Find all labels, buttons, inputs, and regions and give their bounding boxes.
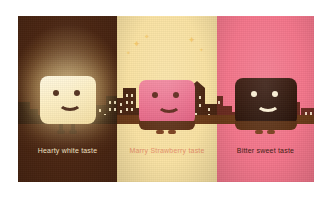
- window-light: [199, 96, 201, 99]
- white-chocolate-character[interactable]: [40, 76, 96, 124]
- character-face: [149, 92, 185, 114]
- caption-strawberry: Marry Strawberry taste: [117, 147, 217, 154]
- sparkle-icon: ✦: [199, 46, 204, 55]
- eye-left-icon: [152, 92, 158, 98]
- window-light: [126, 94, 128, 97]
- panel-strawberry-chocolate[interactable]: ✦ ✦ ✦ ✦ ✦ Marry Strawberry taste: [117, 16, 217, 182]
- smile-mouth-icon: [256, 99, 280, 112]
- window-light: [131, 101, 133, 104]
- character-face: [248, 91, 284, 113]
- window-light: [199, 104, 201, 107]
- foot-left: [255, 130, 263, 134]
- window-light: [208, 108, 210, 111]
- window-light: [120, 103, 122, 106]
- window-light: [218, 101, 220, 104]
- sparkle-icon: ✦: [188, 36, 196, 45]
- smile-mouth-icon: [58, 98, 82, 111]
- sparkle-icon: ✦: [133, 40, 141, 49]
- foot-right: [267, 130, 275, 134]
- poster: Hearty white taste: [18, 16, 314, 182]
- character-body: [40, 76, 96, 124]
- window-light: [109, 101, 111, 104]
- window-light: [126, 101, 128, 104]
- character-face: [50, 90, 86, 112]
- caption-bitter: Bitter sweet taste: [217, 147, 314, 154]
- window-light: [99, 109, 101, 112]
- character-body: [235, 78, 297, 124]
- eye-right-icon: [173, 92, 179, 98]
- sparkle-icon: ✦: [126, 49, 131, 58]
- character-body: [139, 80, 195, 124]
- window-light: [114, 108, 116, 111]
- foot-left: [156, 130, 164, 134]
- foot-left: [57, 130, 65, 134]
- foot-right: [168, 130, 176, 134]
- leg-left: [59, 123, 63, 134]
- panel-bitter-chocolate[interactable]: Bitter sweet taste: [217, 16, 314, 182]
- eye-left-icon: [251, 91, 257, 97]
- window-light: [114, 101, 116, 104]
- window-light: [120, 110, 122, 113]
- strawberry-chocolate-character[interactable]: [139, 80, 195, 124]
- window-light: [109, 108, 111, 111]
- eye-right-icon: [74, 90, 80, 96]
- window-light: [131, 94, 133, 97]
- eye-right-icon: [272, 91, 278, 97]
- smile-mouth-icon: [157, 100, 181, 113]
- dark-chocolate-character[interactable]: [235, 78, 297, 124]
- window-light: [126, 108, 128, 111]
- panel-white-chocolate[interactable]: Hearty white taste: [18, 16, 117, 182]
- leg-right: [71, 123, 75, 134]
- foot-right: [69, 130, 77, 134]
- eye-left-icon: [53, 90, 59, 96]
- sparkle-icon: ✦: [144, 32, 150, 41]
- caption-white: Hearty white taste: [18, 147, 117, 154]
- window-light: [131, 108, 133, 111]
